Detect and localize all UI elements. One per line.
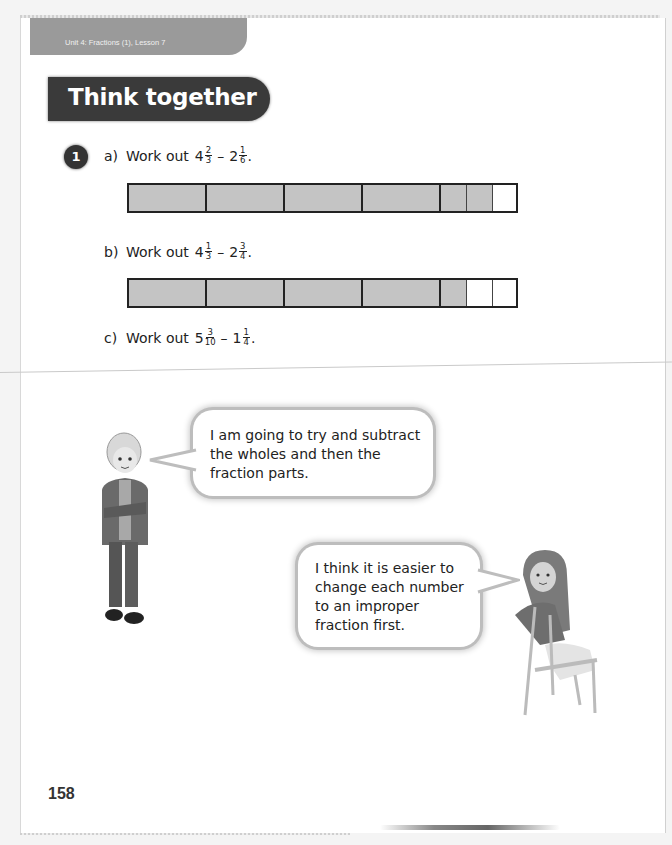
part-cell-empty [493, 280, 516, 306]
whole: 5 [195, 330, 204, 346]
part-label: a) [104, 148, 126, 164]
mixed-number: 4 13 [195, 242, 212, 261]
part-cell-shaded [441, 280, 467, 306]
part-label: c) [104, 330, 126, 346]
whole: 2 [229, 148, 238, 164]
part-cell-empty [467, 280, 493, 306]
question-part-c: c) Work out 5 310 – 1 14 . [104, 328, 255, 347]
part-cell-shaded [441, 185, 467, 211]
whole: 4 [195, 244, 204, 260]
page-number: 158 [48, 785, 75, 803]
period: . [251, 330, 255, 346]
part-label: b) [104, 244, 126, 260]
unit-header-tab: Unit 4: Fractions (1), Lesson 7 [30, 18, 247, 55]
whole-cell [129, 185, 207, 211]
question-part-b: b) Work out 4 13 – 2 34 . [104, 242, 252, 261]
speech-tail-boy [148, 448, 198, 472]
bar-model-b [127, 278, 518, 308]
speech-bubble-girl: I think it is easier to change each numb… [298, 545, 480, 647]
minus-sign: – [217, 148, 224, 164]
fraction: 16 [239, 146, 246, 165]
girl-character-icon [505, 545, 610, 720]
girl-speech-text: I think it is easier to change each numb… [315, 559, 475, 635]
prompt-text: Work out [126, 244, 189, 260]
whole-cell [363, 185, 441, 211]
period: . [248, 148, 252, 164]
prompt-text: Work out [126, 148, 189, 164]
minus-sign: – [217, 244, 224, 260]
whole-cell [129, 280, 207, 306]
whole-cell [207, 185, 285, 211]
mixed-number: 1 14 [233, 328, 250, 347]
page-shadow [380, 825, 560, 830]
whole: 2 [229, 244, 238, 260]
page-bottom-edge [20, 833, 350, 835]
whole-cell [207, 280, 285, 306]
period: . [248, 244, 252, 260]
section-title-banner: Think together [48, 77, 270, 121]
question-number-badge: 1 [64, 145, 88, 169]
bar-model-a [127, 183, 518, 213]
fraction: 310 [205, 328, 216, 347]
prompt-text: Work out [126, 330, 189, 346]
question-part-a: a) Work out 4 23 – 2 16 . [104, 146, 252, 165]
section-title: Think together [68, 84, 257, 110]
boy-speech-text: I am going to try and subtract the whole… [210, 426, 428, 483]
mixed-number: 4 23 [195, 146, 212, 165]
minus-sign: – [221, 330, 228, 346]
fraction: 23 [205, 146, 212, 165]
unit-label: Unit 4: Fractions (1), Lesson 7 [65, 38, 165, 47]
denominator: 10 [205, 338, 216, 347]
whole: 4 [195, 148, 204, 164]
part-cell-empty [493, 185, 516, 211]
mixed-number: 2 34 [229, 242, 246, 261]
whole-cell [363, 280, 441, 306]
whole-cell [285, 280, 363, 306]
mixed-number: 5 310 [195, 328, 216, 347]
fraction: 34 [239, 242, 246, 261]
fraction: 13 [205, 242, 212, 261]
denominator: 3 [206, 156, 211, 165]
denominator: 4 [240, 252, 245, 261]
mixed-number: 2 16 [229, 146, 246, 165]
denominator: 4 [244, 338, 249, 347]
speech-bubble-boy: I am going to try and subtract the whole… [193, 410, 433, 496]
part-cell-shaded [467, 185, 493, 211]
fraction: 14 [243, 328, 250, 347]
denominator: 3 [206, 252, 211, 261]
denominator: 6 [240, 156, 245, 165]
whole: 1 [233, 330, 242, 346]
whole-cell [285, 185, 363, 211]
